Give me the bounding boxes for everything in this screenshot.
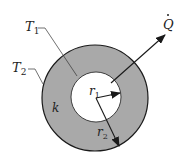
- hollow-cylinder-diagram: T1 T2 k r1 r2 Q: [0, 0, 184, 163]
- heat-rate-label: Q: [163, 17, 174, 32]
- conductivity-label: k: [52, 101, 59, 115]
- t1-label: T1: [25, 19, 39, 36]
- heat-rate-dot: [167, 14, 169, 16]
- t2-label: T2: [12, 60, 26, 77]
- t2-leader-line: [28, 69, 43, 84]
